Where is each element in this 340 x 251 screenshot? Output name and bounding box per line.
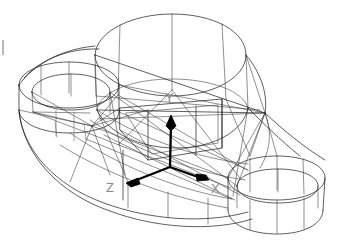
cad-viewport[interactable]: Y Z X bbox=[0, 0, 340, 251]
base-outer-right-3 bbox=[265, 113, 325, 160]
z-axis-line bbox=[134, 167, 170, 181]
node-fan-r1 bbox=[228, 113, 265, 178]
right-boss-top-rim bbox=[228, 156, 325, 200]
base-outer-right-2 bbox=[248, 108, 300, 156]
y-axis-label: Y bbox=[165, 90, 174, 105]
z-axis-label: Z bbox=[106, 180, 114, 195]
left-boss-blend-2 bbox=[33, 112, 90, 113]
base-diag-2 bbox=[97, 110, 265, 113]
x-axis-label: X bbox=[211, 181, 220, 196]
base-diag-8 bbox=[99, 113, 265, 119]
wireframe-model: Y Z X bbox=[0, 0, 340, 251]
base-front-contour bbox=[19, 110, 248, 219]
main-boss-top-rim bbox=[95, 14, 246, 96]
x-axis-arrowhead bbox=[196, 174, 209, 181]
main-boss-gen-2 bbox=[246, 55, 248, 108]
node-fan-4 bbox=[70, 126, 92, 182]
y-axis-arrowhead bbox=[166, 115, 176, 131]
base-diag-1 bbox=[95, 55, 265, 113]
cross-7 bbox=[97, 110, 128, 182]
base-upper-left bbox=[19, 46, 95, 85]
cross-5 bbox=[118, 90, 172, 145]
right-boss-bore bbox=[237, 169, 318, 203]
right-boss-gen-3 bbox=[303, 159, 304, 194]
